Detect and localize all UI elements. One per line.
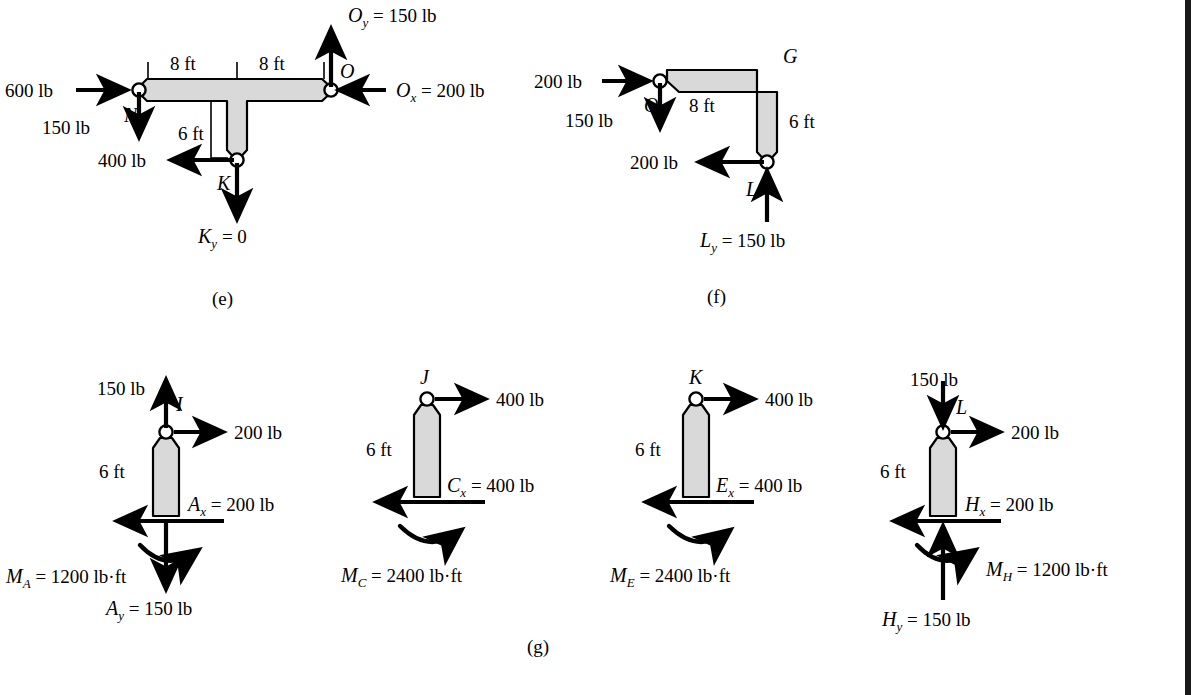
joint-K-label: K	[216, 172, 232, 194]
reaction-Cx-label-JC: Cx = 400 lb	[447, 474, 534, 500]
force-150lb-O-label-f: 150 lb	[565, 110, 613, 131]
reaction-Hx-label-LH: Hx = 200 lb	[964, 493, 1053, 519]
moment-ME-label: ME = 2400 lb·ft	[609, 564, 731, 590]
moment-MA-sub: A	[22, 576, 31, 591]
moment-ME-arc	[669, 526, 729, 542]
member-KE-body	[683, 405, 709, 497]
member-IA: 150 lb I 200 lb 6 ft Ax = 200 lb MA = 12…	[5, 378, 282, 623]
moment-ME-sub: E	[626, 575, 635, 590]
dim-8ft-label-f: 8 ft	[689, 95, 716, 116]
moment-MC-sub: C	[358, 575, 367, 590]
moment-MA-base: M	[5, 565, 24, 587]
joint-L-pin-g	[936, 425, 949, 438]
moment-MA-arc	[140, 545, 197, 561]
reaction-Ax-rest: = 200 lb	[206, 494, 274, 515]
moment-ME-base: M	[609, 564, 628, 586]
dim-6ft-label-KE: 6 ft	[635, 439, 662, 460]
member-LH: 150 lb L 200 lb 6 ft Hx = 200 lb MH = 12…	[880, 369, 1108, 634]
reaction-Ox-label: Ox = 200 lb	[396, 79, 484, 105]
reaction-Ax-label-IA: Ax = 200 lb	[186, 493, 274, 519]
reaction-Oy-base: O	[348, 4, 362, 26]
reaction-Cx-base: C	[447, 474, 461, 496]
moment-MA-label: MA = 1200 lb·ft	[5, 565, 127, 591]
force-600lb-label: 600 lb	[5, 80, 53, 101]
reaction-Ax-base: A	[186, 493, 201, 515]
reaction-Ox-rest: = 200 lb	[416, 80, 484, 101]
reaction-Ky-label: Ky = 0	[197, 225, 247, 251]
free-body-diagram-figure: 600 lb 150 lb N 8 ft 8 ft 6 ft 400 lb K …	[0, 0, 1191, 695]
dim-6ft-label-f: 6 ft	[789, 111, 816, 132]
diagram-f: 200 lb 150 lb O G 8 ft 6 ft 200 lb L Ly …	[534, 45, 816, 308]
member-KE: K 400 lb 6 ft Ex = 400 lb ME = 2400 lb·f…	[609, 366, 813, 590]
reaction-Ay-rest: = 150 lb	[124, 598, 192, 619]
dim-6ft-label-LH: 6 ft	[880, 461, 907, 482]
joint-O-label: O	[340, 60, 354, 82]
member-JC-body	[414, 405, 440, 497]
reaction-Cx-rest: = 400 lb	[466, 475, 534, 496]
force-150lb-down-label-LH: 150 lb	[910, 369, 958, 390]
moment-MC-rest: = 2400 lb·ft	[366, 565, 462, 586]
diagram-e: 600 lb 150 lb N 8 ft 8 ft 6 ft 400 lb K …	[5, 4, 484, 310]
moment-MH-base: M	[985, 558, 1004, 580]
force-400lb-right-label-KE: 400 lb	[765, 389, 813, 410]
reaction-Ky-rest: = 0	[217, 226, 247, 247]
moment-MH-sub: H	[1002, 569, 1013, 584]
moment-MA-rest: = 1200 lb·ft	[31, 566, 127, 587]
joint-K-label-g: K	[688, 366, 704, 388]
joint-N-label: N	[123, 104, 139, 126]
force-400lb-K-label: 400 lb	[98, 150, 146, 171]
joint-J-pin	[420, 392, 433, 405]
reaction-Ex-label-KE: Ex = 400 lb	[715, 474, 802, 500]
reaction-Ex-base: E	[715, 474, 728, 496]
joint-G-label-f: G	[783, 45, 798, 67]
moment-ME-rest: = 2400 lb·ft	[635, 565, 731, 586]
joint-L-label-g: L	[955, 396, 967, 418]
member-IA-body	[153, 438, 179, 516]
joint-J-label: J	[420, 366, 430, 388]
dim-8ft-left-label: 8 ft	[170, 53, 197, 74]
reaction-Ly-label-f: Ly = 150 lb	[699, 229, 785, 255]
caption-f: (f)	[707, 286, 726, 308]
member-L-shape	[667, 70, 777, 163]
force-200lb-right-label-IA: 200 lb	[234, 422, 282, 443]
reaction-Ly-rest: = 150 lb	[717, 230, 785, 251]
reaction-Hy-base: H	[881, 608, 898, 630]
joint-L-label-f: L	[745, 178, 757, 200]
moment-MH-arc	[917, 545, 974, 561]
dim-8ft-right-label: 8 ft	[259, 53, 286, 74]
dim-6ft-label-JC: 6 ft	[366, 439, 393, 460]
page-canvas: 600 lb 150 lb N 8 ft 8 ft 6 ft 400 lb K …	[0, 0, 1191, 695]
moment-MC-arc	[400, 526, 460, 542]
reaction-Ox-base: O	[396, 79, 410, 101]
reaction-Ex-rest: = 400 lb	[734, 475, 802, 496]
moment-MC-label: MC = 2400 lb·ft	[340, 564, 463, 590]
page-right-border	[1185, 0, 1191, 695]
dim-6ft-stem-label: 6 ft	[178, 123, 205, 144]
moment-MC-base: M	[340, 564, 359, 586]
caption-g: (g)	[527, 636, 549, 658]
force-400lb-right-label-JC: 400 lb	[496, 389, 544, 410]
reaction-Ly-base: L	[699, 229, 711, 251]
member-JC: J 400 lb 6 ft Cx = 400 lb MC = 2400 lb·f…	[340, 366, 544, 590]
force-200lb-L-label-f: 200 lb	[630, 152, 678, 173]
joint-O-label-f: O	[644, 94, 658, 116]
dim-6ft-label-IA: 6 ft	[99, 461, 126, 482]
diagram-g: 150 lb I 200 lb 6 ft Ax = 200 lb MA = 12…	[5, 366, 1108, 658]
force-150lb-N-label: 150 lb	[42, 117, 90, 138]
reaction-Hx-rest: = 200 lb	[985, 494, 1053, 515]
joint-I-label: I	[175, 393, 184, 415]
moment-MH-rest: = 1200 lb·ft	[1012, 559, 1108, 580]
reaction-Ay-label-IA: Ay = 150 lb	[104, 597, 192, 623]
force-200lb-right-label-LH: 200 lb	[1011, 422, 1059, 443]
force-200lb-O-label-f: 200 lb	[534, 71, 582, 92]
reaction-Hx-base: H	[964, 493, 981, 515]
reaction-Ay-base: A	[104, 597, 119, 619]
member-T-shape	[136, 79, 334, 161]
reaction-Hy-rest: = 150 lb	[902, 609, 970, 630]
reaction-Oy-label: Oy = 150 lb	[348, 4, 436, 30]
caption-e: (e)	[212, 288, 233, 310]
force-150lb-up-label-IA: 150 lb	[97, 378, 145, 399]
joint-K-pin-g	[689, 392, 702, 405]
member-LH-body	[930, 438, 956, 516]
moment-MH-label: MH = 1200 lb·ft	[985, 558, 1108, 584]
